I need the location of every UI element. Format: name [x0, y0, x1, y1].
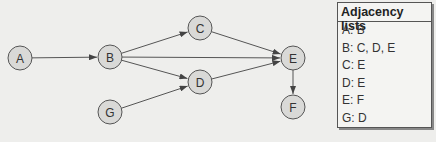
- node-label: F: [289, 101, 296, 115]
- edges: [32, 32, 293, 109]
- edge-b-d: [122, 60, 188, 78]
- node-label: D: [196, 76, 205, 90]
- node-b: B: [98, 45, 122, 69]
- adjacency-row-e: E: F: [338, 92, 431, 110]
- edge-b-e: [122, 57, 280, 58]
- node-label: E: [289, 52, 297, 66]
- adjacency-row-b: B: C, D, E: [338, 40, 431, 58]
- adjacency-row-g: G: D: [338, 110, 431, 128]
- adjacency-row-c: C: E: [338, 57, 431, 75]
- node-c: C: [188, 16, 212, 40]
- edge-c-e: [211, 32, 280, 54]
- edge-d-e: [212, 61, 281, 79]
- node-label: C: [196, 22, 205, 36]
- node-label: G: [105, 106, 114, 120]
- adjacency-lists-title: Adjacency lists: [338, 3, 431, 22]
- directed-graph: ABCDGEF: [0, 0, 330, 142]
- adjacency-lists-panel: Adjacency lists A: B B: C, D, E C: E D: …: [337, 2, 432, 128]
- edge-a-b: [32, 57, 97, 58]
- node-label: A: [16, 52, 24, 66]
- edge-g-d: [121, 86, 187, 108]
- adjacency-row-a: A: B: [338, 22, 431, 40]
- node-g: G: [98, 100, 122, 124]
- node-e: E: [281, 46, 305, 70]
- node-f: F: [281, 95, 305, 119]
- adjacency-row-d: D: E: [338, 75, 431, 93]
- node-d: D: [188, 70, 212, 94]
- edge-b-c: [121, 32, 187, 53]
- node-a: A: [8, 46, 32, 70]
- node-label: B: [106, 51, 114, 65]
